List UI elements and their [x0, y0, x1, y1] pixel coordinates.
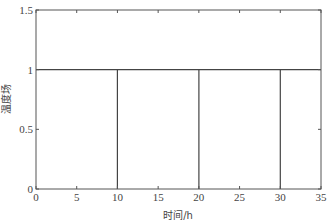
x-axis-title: 时间/h	[163, 209, 193, 221]
y-tick-label: 0.5	[19, 123, 33, 135]
x-tick-label: 0	[33, 191, 39, 203]
y-axis-title: 温度场	[0, 84, 12, 114]
y-axis: 00.511.5	[19, 4, 321, 195]
y-tick-label: 1	[28, 64, 34, 76]
x-tick-label: 20	[193, 191, 205, 203]
plot-frame	[36, 10, 321, 189]
chart: 05101520253035 00.511.5 时间/h 温度场	[0, 0, 330, 224]
x-tick-label: 15	[153, 191, 165, 203]
series-line	[36, 70, 321, 189]
x-tick-label: 30	[275, 191, 287, 203]
x-tick-label: 5	[74, 191, 80, 203]
y-tick-label: 0	[28, 183, 34, 195]
plot-area	[36, 10, 321, 189]
y-tick-label: 1.5	[19, 4, 33, 16]
x-tick-label: 25	[234, 191, 246, 203]
series-lines	[36, 70, 321, 189]
x-tick-label: 10	[112, 191, 124, 203]
x-axis: 05101520253035	[33, 10, 327, 203]
x-tick-label: 35	[316, 191, 328, 203]
